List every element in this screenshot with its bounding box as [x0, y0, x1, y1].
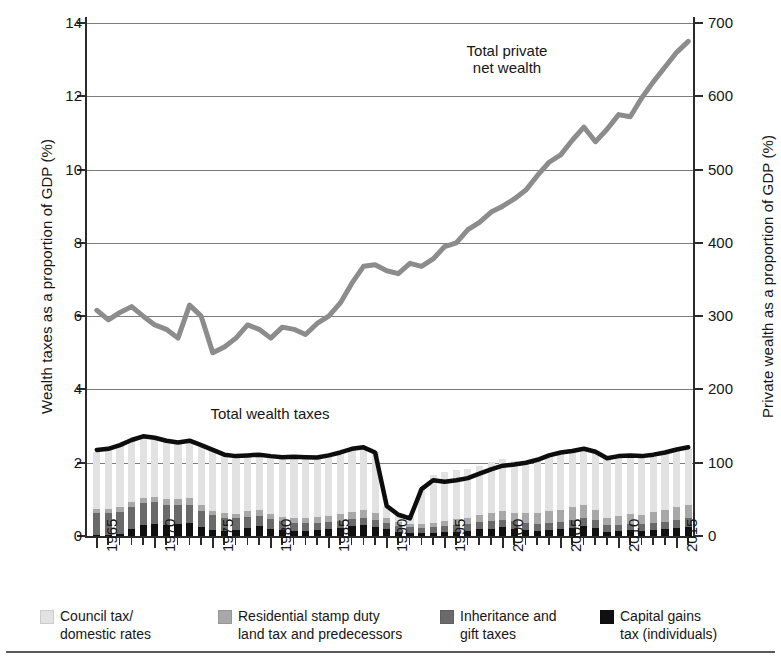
x-tick-minor [652, 538, 654, 545]
x-tick-label: 1980 [277, 519, 294, 552]
legend-swatch-stamp-duty [218, 610, 232, 624]
annotation-wealth-taxes: Total wealth taxes [170, 405, 370, 422]
y-tick-label-right: 100 [708, 455, 758, 470]
x-tick-minor [142, 538, 144, 545]
x-tick-major [502, 538, 504, 548]
x-tick-minor [316, 538, 318, 545]
x-tick-minor [131, 538, 133, 545]
x-tick-minor [432, 538, 434, 545]
legend-swatch-capital-gains [600, 610, 614, 624]
x-tick-major [444, 538, 446, 548]
y-tick-label-left: 0 [42, 528, 82, 543]
y-tick-label-left: 10 [42, 162, 82, 177]
chart-figure: Wealth taxes as a proportion of GDP (%) … [0, 0, 781, 664]
y-tick-label-left: 12 [42, 88, 82, 103]
y-tick-label-right: 400 [708, 235, 758, 250]
x-tick-label: 2005 [567, 519, 584, 552]
x-tick-minor [421, 538, 423, 545]
legend-swatch-council-tax [40, 610, 54, 624]
x-tick-minor [374, 538, 376, 545]
x-tick-major [96, 538, 98, 548]
x-tick-minor [200, 538, 202, 545]
legend-item-capital-gains: Capital gains tax (individuals) [600, 608, 717, 643]
y-tick-label-left: 8 [42, 235, 82, 250]
x-tick-minor [258, 538, 260, 545]
x-tick-minor [363, 538, 365, 545]
x-tick-major [386, 538, 388, 548]
axis-spine-left [85, 17, 87, 538]
x-tick-minor [594, 538, 596, 545]
legend-label-council-tax: Council tax/ domestic rates [60, 608, 151, 643]
x-tick-label: 1985 [335, 519, 352, 552]
y-tick-right [695, 462, 703, 464]
y-tick-label-right: 700 [708, 15, 758, 30]
y-axis-left-title: Wealth taxes as a proportion of GDP (%) [38, 77, 55, 477]
x-tick-minor [490, 538, 492, 545]
x-tick-major [618, 538, 620, 548]
y-tick-right [695, 95, 703, 97]
x-tick-minor [189, 538, 191, 545]
legend-swatch-inheritance [440, 610, 454, 624]
annotation-private-wealth: Total private net wealth [437, 42, 577, 77]
legend-item-stamp-duty: Residential stamp duty land tax and pred… [218, 608, 440, 643]
x-tick-major [212, 538, 214, 548]
y-tick-right [695, 22, 703, 24]
legend-label-capital-gains: Capital gains tax (individuals) [620, 608, 717, 643]
x-tick-major [676, 538, 678, 548]
y-tick-label-left: 2 [42, 455, 82, 470]
line-series-layer [85, 17, 695, 538]
x-tick-major [328, 538, 330, 548]
x-tick-label: 2010 [625, 519, 642, 552]
x-tick-major [270, 538, 272, 548]
y-tick-label-left: 6 [42, 308, 82, 323]
x-tick-major [154, 538, 156, 548]
total-wealth-taxes-line [97, 436, 688, 518]
legend-item-inheritance: Inheritance and gift taxes [440, 608, 600, 643]
y-tick-label-left: 4 [42, 381, 82, 396]
x-tick-label: 1995 [451, 519, 468, 552]
legend-label-stamp-duty: Residential stamp duty land tax and pred… [238, 608, 402, 643]
x-tick-label: 1990 [393, 519, 410, 552]
x-tick-minor [548, 538, 550, 545]
x-tick-minor [478, 538, 480, 545]
footer-divider [6, 651, 775, 653]
y-tick-right [695, 242, 703, 244]
x-tick-minor [664, 538, 666, 545]
y-tick-label-right: 600 [708, 88, 758, 103]
y-tick-right [695, 388, 703, 390]
legend-label-inheritance: Inheritance and gift taxes [460, 608, 557, 643]
y-tick-right [695, 315, 703, 317]
private-wealth-line [97, 41, 688, 352]
x-tick-label: 1970 [161, 519, 178, 552]
x-tick-label: 2000 [509, 519, 526, 552]
y-tick-label-right: 0 [708, 528, 758, 543]
plot-area: 02468101214 0100200300400500600700 19651… [85, 17, 695, 538]
x-tick-minor [536, 538, 538, 545]
y-axis-right-title: Private wealth as a proportion of GDP (%… [759, 77, 776, 477]
x-tick-minor [305, 538, 307, 545]
y-tick-label-right: 200 [708, 381, 758, 396]
y-tick-label-right: 500 [708, 162, 758, 177]
x-tick-label: 1965 [103, 519, 120, 552]
y-tick-label-right: 300 [708, 308, 758, 323]
x-tick-label: 1975 [219, 519, 236, 552]
x-tick-minor [606, 538, 608, 545]
x-tick-major [560, 538, 562, 548]
y-tick-right [695, 169, 703, 171]
chart-legend: Council tax/ domestic rates Residential … [40, 608, 745, 646]
x-tick-minor [247, 538, 249, 545]
y-tick-label-left: 14 [42, 15, 82, 30]
legend-item-council-tax: Council tax/ domestic rates [40, 608, 218, 643]
x-tick-label: 2015 [683, 519, 700, 552]
